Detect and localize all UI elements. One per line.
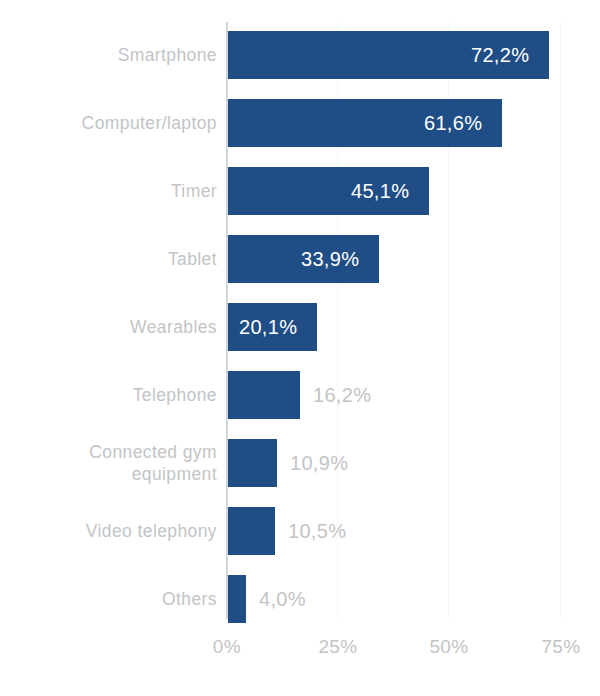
category-label-video-telephony: Video telephony [7, 520, 217, 542]
bar-value-wearables: 20,1% [239, 303, 297, 351]
bar-value-smartphone: 72,2% [471, 31, 529, 79]
bar-connected-gym-equipment [228, 439, 277, 487]
bar-others [228, 575, 246, 623]
category-label-computer-laptop: Computer/laptop [7, 112, 217, 134]
xtick-75: 75% [526, 636, 596, 658]
xtick-0: 0% [192, 636, 262, 658]
bar-value-others: 4,0% [259, 575, 306, 623]
bar-value-telephone: 16,2% [313, 371, 371, 419]
category-label-tablet: Tablet [7, 248, 217, 270]
category-label-telephone: Telephone [7, 384, 217, 406]
gridline-75 [560, 22, 561, 619]
category-label-wearables: Wearables [7, 316, 217, 338]
bar-value-computer-laptop: 61,6% [424, 99, 482, 147]
xtick-50: 50% [414, 636, 484, 658]
bar-telephone [228, 371, 300, 419]
xtick-25: 25% [303, 636, 373, 658]
bar-value-timer: 45,1% [351, 167, 409, 215]
category-label-timer: Timer [7, 180, 217, 202]
category-label-connected-gym-equipment: Connected gym equipment [7, 441, 217, 485]
bar-value-tablet: 33,9% [301, 235, 359, 283]
bar-video-telephony [228, 507, 275, 555]
category-label-others: Others [7, 588, 217, 610]
bar-chart: Smartphone 72,2% Computer/laptop 61,6% T… [0, 0, 600, 696]
bar-value-video-telephony: 10,5% [288, 507, 346, 555]
bar-value-connected-gym-equipment: 10,9% [290, 439, 348, 487]
category-label-smartphone: Smartphone [7, 44, 217, 66]
